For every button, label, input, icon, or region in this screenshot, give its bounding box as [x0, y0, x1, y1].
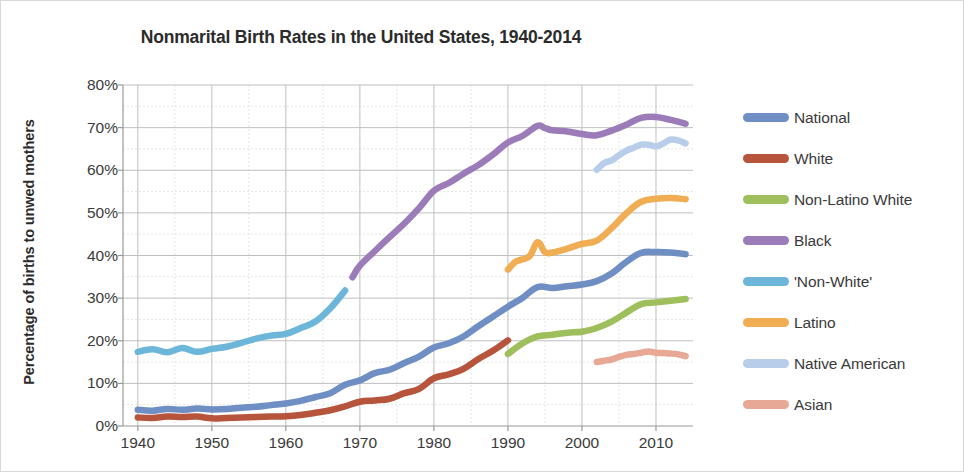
- y-axis-tick-labels: 0%10%20%30%40%50%60%70%80%: [56, 85, 118, 426]
- legend-swatch-icon: [743, 318, 789, 327]
- series-line-non-white: [138, 290, 345, 352]
- legend-swatch-icon: [743, 154, 789, 163]
- data-series-group: [138, 117, 686, 419]
- legend-label: National: [794, 109, 850, 127]
- chart-container: Nonmarital Birth Rates in the United Sta…: [0, 0, 964, 472]
- legend-swatch-icon: [743, 195, 789, 204]
- series-line-asian: [597, 351, 686, 362]
- x-tick-label: 2010: [616, 434, 696, 452]
- legend-label: 'Non-White': [794, 273, 872, 291]
- x-tick-label: 1940: [98, 434, 178, 452]
- legend-label: Non-Latino White: [794, 191, 912, 209]
- x-tick-label: 1990: [468, 434, 548, 452]
- legend-item[interactable]: 'Non-White': [743, 261, 959, 302]
- y-tick-label: 20%: [60, 332, 118, 350]
- x-tick-label: 2000: [542, 434, 622, 452]
- legend-label: Native American: [794, 355, 905, 373]
- y-tick-label: 40%: [60, 247, 118, 265]
- y-tick-label: 70%: [60, 119, 118, 137]
- series-line-native-american: [597, 139, 686, 169]
- legend-item[interactable]: National: [743, 97, 959, 138]
- plot-area: [123, 85, 693, 426]
- y-tick-label: 50%: [60, 204, 118, 222]
- legend-swatch-icon: [743, 359, 789, 368]
- legend-label: White: [794, 150, 833, 168]
- legend-item[interactable]: Asian: [743, 384, 959, 425]
- legend-item[interactable]: Latino: [743, 302, 959, 343]
- legend-swatch-icon: [743, 113, 789, 122]
- chart-title: Nonmarital Birth Rates in the United Sta…: [1, 27, 721, 48]
- legend-label: Latino: [794, 314, 836, 332]
- series-line-national: [138, 252, 686, 411]
- legend-item[interactable]: Native American: [743, 343, 959, 384]
- series-line-non-latino-white: [508, 299, 686, 354]
- x-tick-label: 1970: [320, 434, 400, 452]
- legend-item[interactable]: Black: [743, 220, 959, 261]
- x-tick-label: 1960: [246, 434, 326, 452]
- x-tick-label: 1950: [172, 434, 252, 452]
- legend-swatch-icon: [743, 277, 789, 286]
- legend-label: Asian: [794, 396, 832, 414]
- y-tick-label: 30%: [60, 289, 118, 307]
- y-tick-label: 60%: [60, 161, 118, 179]
- legend-item[interactable]: White: [743, 138, 959, 179]
- chart-legend: NationalWhiteNon-Latino WhiteBlack'Non-W…: [743, 97, 959, 425]
- plot-svg: [123, 85, 693, 426]
- y-tick-label: 10%: [60, 374, 118, 392]
- x-tick-label: 1980: [394, 434, 474, 452]
- y-tick-label: 0%: [60, 417, 118, 435]
- y-tick-label: 80%: [60, 76, 118, 94]
- axis-lines: [118, 85, 693, 431]
- major-gridlines: [123, 85, 693, 426]
- y-axis-title: Percentage of births to unwed mothers: [21, 82, 37, 422]
- x-axis-tick-labels: 19401950196019701980199020002010: [123, 434, 693, 462]
- legend-item[interactable]: Non-Latino White: [743, 179, 959, 220]
- legend-swatch-icon: [743, 400, 789, 409]
- legend-label: Black: [794, 232, 831, 250]
- legend-swatch-icon: [743, 236, 789, 245]
